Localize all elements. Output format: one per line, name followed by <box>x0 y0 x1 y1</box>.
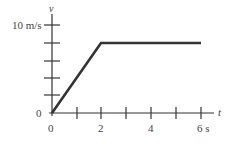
x-tick-0: 0 <box>48 123 54 134</box>
x-tick-4: 4 <box>148 123 154 134</box>
y-axis-label: v <box>49 3 53 14</box>
x-tick-6: 6 s <box>197 123 210 134</box>
y-tick-10: 10 m/s <box>12 20 42 31</box>
x-axis-label: t <box>218 107 221 118</box>
x-tick-2: 2 <box>98 123 104 134</box>
y-tick-0: 0 <box>36 108 42 119</box>
velocity-line <box>52 43 201 113</box>
